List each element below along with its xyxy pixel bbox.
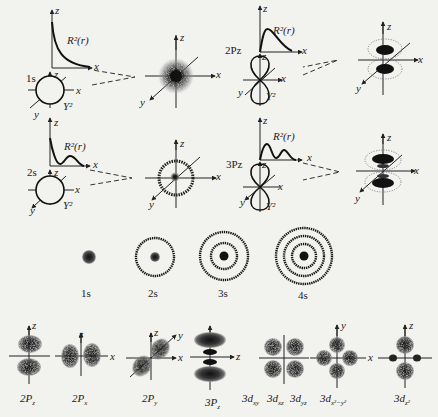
- orbital-label-3pz: 3Pz: [205, 396, 220, 411]
- axis-label-x: x: [76, 84, 81, 96]
- axis-label-y: y: [30, 204, 35, 216]
- axis-label-z: z: [154, 326, 158, 338]
- projection-lines-2s: [90, 170, 132, 185]
- axis-label-z: z: [387, 20, 391, 32]
- axis-label-y: y: [34, 108, 39, 120]
- atomic-orbital-diagram: z R²(r) x 1s z x Y² z x y z R²(r) x 2Pz …: [0, 0, 438, 417]
- radial-label-1s: R²(r): [67, 34, 89, 46]
- axis-label-z: z: [54, 68, 58, 80]
- axis-label-y: y: [178, 329, 183, 341]
- axis-label-y: y: [355, 192, 360, 204]
- orbital-label-3dx2y2: 3dx²−y²: [320, 392, 346, 407]
- axis-label-z: z: [262, 50, 266, 62]
- axis-label-y: y: [240, 196, 245, 208]
- axis-label-y: y: [149, 198, 154, 210]
- cloud-2s: [136, 238, 174, 276]
- axis-label-x: x: [418, 53, 423, 65]
- axis-label-z: z: [387, 131, 391, 143]
- projection-lines-1s: [92, 70, 135, 85]
- orbital-label-2s: 2s: [27, 166, 37, 178]
- axis-label-z: z: [262, 158, 266, 170]
- angular-label-3pz: Y²: [266, 200, 275, 212]
- axis-label-y: y: [238, 86, 243, 98]
- cloud-1s-3d: [145, 35, 215, 108]
- radial-label-3pz: R²(r): [273, 130, 295, 142]
- axis-label-y: y: [356, 82, 361, 94]
- cloud-2pz: [9, 326, 50, 384]
- label-3s: 3s: [218, 287, 228, 299]
- axis-label-x: x: [178, 351, 183, 363]
- angular-label-2s: Y²: [63, 199, 72, 211]
- label-4s: 4s: [298, 289, 308, 301]
- orbital-label-3dz2: 3dz²: [394, 392, 410, 407]
- axis-label-x: x: [75, 183, 80, 195]
- cloud-2s-3d: [145, 140, 216, 208]
- orbital-label-2pz: 2Pz: [225, 44, 242, 56]
- angular-label-1s: Y²: [63, 100, 72, 112]
- cloud-3d-z2: [378, 325, 432, 388]
- axis-label-x: x: [216, 68, 221, 80]
- projection-lines-3pz: [303, 163, 340, 180]
- axis-label-x: x: [307, 151, 312, 163]
- axis-label-z: z: [263, 114, 267, 126]
- axis-label-z: z: [409, 319, 413, 331]
- cloud-2pz-3d: [358, 22, 418, 95]
- axis-label-x: x: [281, 72, 286, 84]
- orbital-label-3dyz: 3dyz: [290, 392, 307, 407]
- orbital-label-1s: 1s: [26, 72, 36, 84]
- cloud-4s: [276, 228, 332, 284]
- cloud-3d-xy-xz-yz: [259, 335, 309, 384]
- axis-label-z: z: [263, 2, 267, 14]
- angular-label-2pz: Y²: [266, 90, 275, 102]
- axis-label-z: z: [54, 166, 58, 178]
- cloud-3d-x2-y2: [310, 325, 366, 388]
- axis-label-x: x: [216, 170, 221, 182]
- label-1s: 1s: [81, 287, 91, 299]
- radial-label-2s: R²(r): [64, 140, 86, 152]
- axis-label-y: y: [341, 319, 346, 331]
- axis-label-z: z: [54, 116, 58, 128]
- axis-label-x: x: [414, 164, 419, 176]
- orbital-label-3dxy: 3dxy: [242, 392, 259, 407]
- cloud-3s: [200, 232, 248, 280]
- cloud-3pz: [190, 326, 234, 390]
- orbital-label-3dxz: 3dxz: [267, 392, 284, 407]
- orbital-label-2px: 2Px: [72, 392, 87, 407]
- cloud-1s: [82, 250, 96, 264]
- axis-label-x: x: [368, 351, 373, 363]
- axis-label-z: z: [55, 4, 59, 16]
- axis-label-z: z: [79, 328, 83, 340]
- label-2s: 2s: [148, 287, 158, 299]
- orbital-label-3pz: 3Pz: [226, 158, 243, 170]
- axis-label-x: x: [302, 44, 307, 56]
- axis-label-y: y: [140, 96, 145, 108]
- axis-label-z: z: [32, 319, 36, 331]
- cloud-2py: [126, 333, 176, 380]
- cloud-3pz-3d: [356, 134, 415, 205]
- axis-label-x: x: [93, 158, 98, 170]
- s-series-clouds: [82, 228, 332, 284]
- projection-lines-2pz: [303, 60, 338, 75]
- orbital-label-2pz: 2Pz: [20, 392, 35, 407]
- axis-label-z: z: [236, 350, 240, 362]
- orbital-label-2py: 2Py: [142, 392, 157, 407]
- axis-label-x: x: [94, 60, 99, 72]
- axis-label-z: z: [180, 31, 184, 43]
- radial-label-2pz: R²(r): [273, 24, 295, 36]
- axis-label-x: x: [110, 350, 115, 362]
- axis-label-z: z: [180, 137, 184, 149]
- axis-label-x: x: [278, 180, 283, 192]
